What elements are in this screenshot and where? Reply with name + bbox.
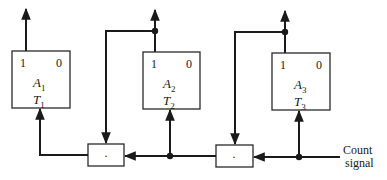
ff1-output-1: 1 bbox=[20, 56, 26, 70]
t1-input-wire bbox=[40, 109, 88, 155]
counter-diagram: 1 0 A1 T1 1 0 A2 T2 1 0 A3 T3 · · Count … bbox=[0, 0, 387, 180]
junction-dot bbox=[282, 29, 288, 35]
ff2-output-1: 1 bbox=[151, 57, 157, 71]
ff1-output-0: 0 bbox=[56, 56, 62, 70]
and-gate-2-symbol: · bbox=[232, 150, 236, 164]
ff3-output-1: 1 bbox=[280, 58, 286, 72]
ff2-output-0: 0 bbox=[186, 57, 192, 71]
ff3-output-0: 0 bbox=[316, 58, 322, 72]
count-signal-label-line2: signal bbox=[345, 156, 374, 170]
count-signal-label-line1: Count bbox=[343, 143, 373, 157]
and-gate-1-symbol: · bbox=[104, 149, 108, 163]
junction-dot bbox=[152, 28, 158, 34]
